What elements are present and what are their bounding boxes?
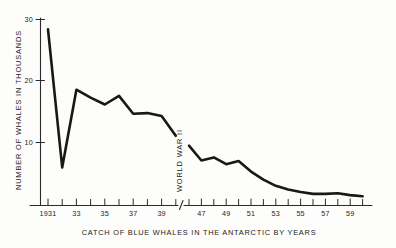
x-tick-label-37: 37 (129, 209, 137, 218)
x-tick-label-33: 33 (72, 209, 80, 218)
data-series-prewar (48, 29, 176, 167)
x-tick-label-51: 51 (247, 209, 255, 218)
chart-figure: 10 20 30 1931 33 35 37 39 (0, 0, 396, 248)
y-tick-label-20: 20 (25, 76, 33, 85)
x-tick-label-47: 47 (197, 209, 205, 218)
world-war-ii-annotation: WORLD WAR II (175, 129, 184, 192)
x-tick-label-1931: 1931 (40, 209, 57, 218)
x-tick-label-35: 35 (101, 209, 109, 218)
y-tick-label-30: 30 (25, 15, 33, 24)
x-tick-label-49: 49 (222, 209, 230, 218)
x-tick-label-57: 57 (321, 209, 329, 218)
x-tick-label-39: 39 (157, 209, 165, 218)
axis-break-mark (180, 201, 184, 210)
x-tick-label-59: 59 (346, 209, 354, 218)
y-axis-title: NUMBER OF WHALES IN THOUSANDS (14, 30, 23, 190)
x-tick-label-53: 53 (272, 209, 280, 218)
x-axis-caption: CATCH OF BLUE WHALES IN THE ANTARCTIC BY… (82, 228, 317, 237)
y-tick-label-10: 10 (25, 138, 33, 147)
data-series-postwar (189, 146, 363, 197)
whale-catch-line-chart: 10 20 30 1931 33 35 37 39 (0, 0, 396, 248)
x-tick-label-55: 55 (296, 209, 304, 218)
